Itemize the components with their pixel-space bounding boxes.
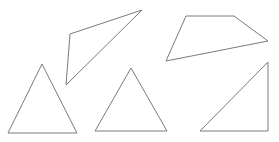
isosceles-triangle-middle xyxy=(95,68,167,131)
quadrilateral xyxy=(166,16,268,61)
shapes-diagram xyxy=(0,0,279,142)
right-triangle xyxy=(200,62,268,131)
skinny-triangle xyxy=(66,10,142,85)
